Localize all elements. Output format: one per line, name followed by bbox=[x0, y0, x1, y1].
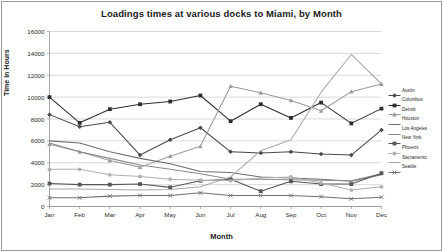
legend-item-label: New York bbox=[402, 136, 421, 141]
y-tick-label: 2000 bbox=[15, 181, 45, 188]
legend-swatch-icon bbox=[388, 163, 401, 172]
legend-swatch-icon bbox=[388, 105, 401, 114]
legend-swatch-icon bbox=[388, 96, 401, 105]
chart-legend: AustinColumbusDetroitHoustonLos AngelesN… bbox=[388, 86, 443, 172]
x-tick-label: Aug bbox=[248, 211, 274, 218]
legend-item-phoenix[interactable]: Phoenix bbox=[388, 144, 443, 154]
legend-item-label: Phoenix bbox=[402, 146, 419, 151]
series-seattle bbox=[48, 191, 384, 201]
x-tick-label: May bbox=[157, 211, 183, 218]
legend-item-austin[interactable]: Austin bbox=[388, 86, 443, 96]
series-columbus bbox=[48, 94, 384, 126]
series-houston bbox=[50, 141, 382, 181]
x-tick-label: Sep bbox=[278, 211, 304, 218]
x-tick-label: Nov bbox=[338, 211, 364, 218]
y-tick-label: 6000 bbox=[15, 137, 45, 144]
series-sacramento bbox=[50, 54, 382, 190]
y-tick-label: 0 bbox=[15, 203, 45, 210]
legend-item-detroit[interactable]: Detroit bbox=[388, 105, 443, 115]
legend-item-label: Los Angeles bbox=[402, 127, 427, 132]
x-tick-label: Dec bbox=[369, 211, 395, 218]
legend-swatch-icon bbox=[388, 125, 401, 134]
legend-item-sacramento[interactable]: Sacramento bbox=[388, 153, 443, 163]
x-tick-label: Apr bbox=[127, 211, 153, 218]
legend-item-los-angeles[interactable]: Los Angeles bbox=[388, 124, 443, 134]
legend-item-label: Houston bbox=[402, 117, 419, 122]
legend-item-new-york[interactable]: New York bbox=[388, 134, 443, 144]
legend-swatch-icon bbox=[388, 86, 401, 95]
legend-item-label: Austin bbox=[402, 89, 415, 94]
legend-item-label: Seattle bbox=[402, 165, 416, 170]
y-tick-label: 14000 bbox=[15, 50, 45, 57]
x-tick-label: Jun bbox=[187, 211, 213, 218]
x-tick-label: Jan bbox=[37, 211, 63, 218]
y-tick-label: 12000 bbox=[15, 72, 45, 79]
x-tick-label: Jul bbox=[218, 211, 244, 218]
legend-item-label: Columbus bbox=[402, 98, 423, 103]
y-tick-label: 16000 bbox=[15, 28, 45, 35]
y-tick-label: 8000 bbox=[15, 116, 45, 123]
legend-item-label: Sacramento bbox=[402, 156, 427, 161]
legend-item-seattle[interactable]: Seattle bbox=[388, 163, 443, 173]
y-tick-label: 10000 bbox=[15, 94, 45, 101]
legend-swatch-icon bbox=[388, 153, 401, 162]
legend-swatch-icon bbox=[388, 134, 401, 143]
x-tick-label: Feb bbox=[67, 211, 93, 218]
chart-container: Loadings times at various docks to Miami… bbox=[0, 0, 443, 252]
x-tick-label: Oct bbox=[308, 211, 334, 218]
y-tick-label: 4000 bbox=[15, 159, 45, 166]
legend-item-label: Detroit bbox=[402, 108, 416, 113]
legend-item-columbus[interactable]: Columbus bbox=[388, 96, 443, 106]
x-tick-label: Mar bbox=[97, 211, 123, 218]
legend-swatch-icon bbox=[388, 115, 401, 124]
legend-item-houston[interactable]: Houston bbox=[388, 115, 443, 125]
legend-swatch-icon bbox=[388, 144, 401, 153]
